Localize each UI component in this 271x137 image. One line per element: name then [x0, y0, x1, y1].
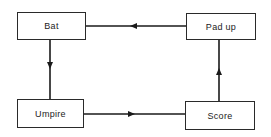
node-label: Umpire	[35, 109, 66, 119]
edge-padup-to-bat	[86, 23, 186, 29]
node-pad-up: Pad up	[186, 13, 256, 40]
edge-score-to-padup	[216, 40, 222, 101]
node-bat: Bat	[17, 12, 86, 40]
arrow-up-icon	[216, 68, 222, 75]
arrow-left-icon	[130, 23, 137, 29]
arrow-down-icon	[47, 62, 53, 69]
node-score: Score	[185, 101, 255, 130]
arrow-right-icon	[128, 111, 135, 117]
edge-umpire-to-score	[84, 111, 185, 117]
node-umpire: Umpire	[17, 99, 84, 128]
node-label: Score	[207, 111, 232, 121]
edge-bat-to-umpire	[47, 40, 53, 99]
node-label: Bat	[44, 21, 58, 31]
node-label: Pad up	[206, 22, 236, 32]
